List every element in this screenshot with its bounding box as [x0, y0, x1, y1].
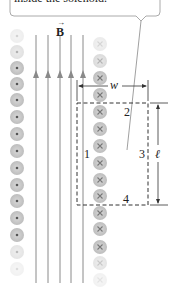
- callout-bubble: [10, 0, 160, 150]
- solenoid-ampere-loop-diagram: inside the solenoid. → B w 2 1 3 ℓ 4: [0, 0, 171, 296]
- callout-pointer: [127, 21, 141, 150]
- right-wire-column-crosses: [93, 37, 107, 287]
- magnetic-field-lines: [33, 35, 86, 283]
- callout-text: inside the solenoid.: [14, 0, 107, 6]
- side-4-label: 4: [123, 193, 129, 205]
- length-label: ℓ: [155, 148, 160, 160]
- side-2-label: 2: [124, 106, 130, 118]
- side-3-label: 3: [139, 148, 145, 160]
- width-label: w: [110, 79, 118, 91]
- b-field-label: B: [56, 26, 64, 38]
- left-wire-column-dots: [10, 29, 24, 276]
- side-1-label: 1: [84, 148, 90, 160]
